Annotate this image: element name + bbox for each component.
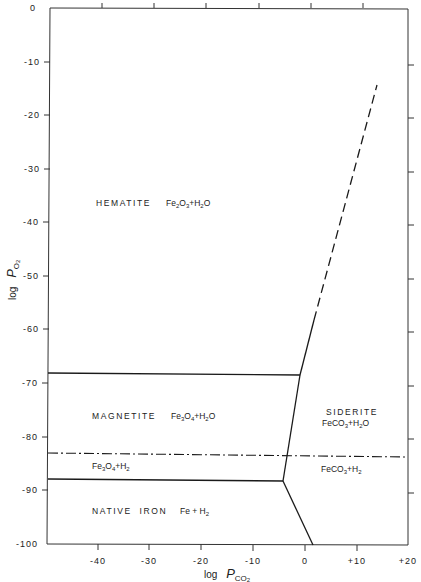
siderite-label: SIDERITE xyxy=(326,407,378,417)
x-tick-pos20: +20 xyxy=(399,556,417,566)
region-native-iron: NATIVE IRON Fe + H2 xyxy=(92,506,210,517)
boundary-iron-siderite xyxy=(283,481,313,545)
y-tick-labels: 0 -10 -20 -30 -40 -50 -60 -70 -80 -90 -1… xyxy=(16,3,40,549)
y-tick-10: -10 xyxy=(24,57,40,67)
x-tick-labels: -40 -30 -20 -10 0 +10 +20 xyxy=(90,556,417,566)
native-iron-formula: Fe + H2 xyxy=(180,506,210,517)
y-tick-100: -100 xyxy=(16,539,38,549)
boundary-magnetite-siderite xyxy=(283,375,300,481)
y-tick-40: -40 xyxy=(23,217,39,227)
water-stability-line xyxy=(48,453,408,457)
x-tick-neg10: -10 xyxy=(245,556,261,566)
boundary-hematite-magnetite xyxy=(48,373,300,375)
boundary-magnetite-iron xyxy=(48,479,283,481)
region-siderite: SIDERITE FeCO3+H2O xyxy=(322,407,378,429)
y-tick-90: -90 xyxy=(22,485,38,495)
region-magnetite: MAGNETITE Fe3O4+H2O xyxy=(92,411,216,422)
y-tick-20: -20 xyxy=(24,110,40,120)
x-tick-pos10: +10 xyxy=(348,556,366,566)
magnetite-h2-formula: Fe3O4+H2 xyxy=(92,461,130,472)
y-tick-50: -50 xyxy=(23,271,39,281)
top-axis-ticks xyxy=(102,3,363,8)
y-tick-80: -80 xyxy=(22,432,38,442)
x-tick-neg40: -40 xyxy=(90,556,106,566)
x-tick-neg20: -20 xyxy=(193,556,209,566)
y-axis-title: log PO2 xyxy=(4,259,21,300)
siderite-h2-formula: FeCO3+H2 xyxy=(321,464,362,475)
x-tick-0: 0 xyxy=(302,556,308,566)
siderite-formula: FeCO3+H2O xyxy=(322,418,369,429)
native-iron-label: NATIVE IRON xyxy=(92,506,167,516)
magnetite-formula: Fe3O4+H2O xyxy=(171,411,216,422)
hematite-label: HEMATITE xyxy=(96,198,151,208)
x-tick-neg30: -30 xyxy=(141,556,157,566)
region-hematite: HEMATITE Fe2O3+H2O xyxy=(96,198,211,209)
y-tick-60: -60 xyxy=(23,324,39,334)
region-siderite-hydrogen: FeCO3+H2 xyxy=(321,464,362,475)
boundary-hematite-siderite xyxy=(300,320,314,375)
right-axis-ticks xyxy=(408,65,414,493)
magnetite-label: MAGNETITE xyxy=(92,411,156,421)
region-magnetite-hydrogen: Fe3O4+H2 xyxy=(92,461,130,472)
phase-diagram: 0 -10 -20 -30 -40 -50 -60 -70 -80 -90 -1… xyxy=(0,0,421,582)
phase-boundaries xyxy=(48,85,408,545)
boundary-hematite-siderite-dashed xyxy=(314,85,377,320)
hematite-formula: Fe2O3+H2O xyxy=(166,198,211,209)
y-tick-30: -30 xyxy=(24,164,40,174)
x-axis-title: log PCO2 xyxy=(204,566,251,582)
left-axis-ticks xyxy=(42,62,50,490)
y-tick-70: -70 xyxy=(22,378,38,388)
y-tick-0: 0 xyxy=(30,3,36,13)
